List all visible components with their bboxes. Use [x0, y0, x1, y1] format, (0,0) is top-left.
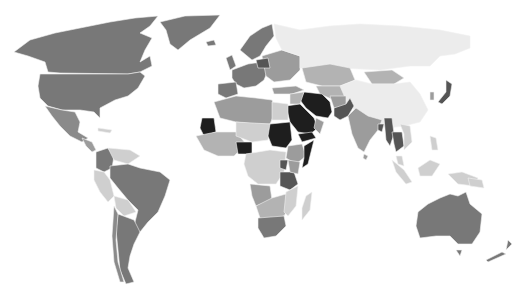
region-indonesia[interactable]	[392, 160, 478, 186]
region-sri-lanka[interactable]	[363, 154, 368, 160]
region-caribbean[interactable]	[98, 128, 112, 133]
region-kazakhstan[interactable]	[302, 64, 355, 86]
region-mexico[interactable]	[45, 106, 88, 142]
region-south-africa[interactable]	[258, 216, 286, 238]
region-kenya[interactable]	[288, 160, 300, 174]
region-new-zealand[interactable]	[486, 240, 512, 262]
region-oman[interactable]	[314, 118, 324, 134]
region-iceland[interactable]	[206, 40, 216, 46]
region-egypt[interactable]	[272, 102, 288, 120]
region-iberia[interactable]	[218, 82, 238, 98]
region-central-america[interactable]	[82, 138, 96, 152]
region-sudan[interactable]	[268, 122, 292, 148]
region-nigeria[interactable]	[236, 142, 252, 154]
region-mongolia[interactable]	[364, 70, 404, 84]
south-america	[94, 148, 170, 284]
region-somalia[interactable]	[302, 140, 314, 168]
region-russia[interactable]	[274, 24, 470, 70]
world-choropleth-map	[0, 0, 522, 289]
region-canada[interactable]	[14, 16, 158, 74]
region-australia[interactable]	[416, 192, 482, 244]
region-thailand[interactable]	[392, 132, 404, 152]
north-america	[14, 15, 220, 152]
region-uganda[interactable]	[280, 160, 288, 170]
region-poland[interactable]	[256, 58, 270, 68]
region-madagascar[interactable]	[302, 192, 312, 220]
region-papua[interactable]	[468, 178, 484, 188]
region-north-africa[interactable]	[214, 96, 276, 124]
region-philippines[interactable]	[430, 136, 438, 150]
region-uk[interactable]	[226, 55, 236, 70]
oceania	[416, 178, 512, 262]
region-korea[interactable]	[430, 92, 434, 100]
region-tasmania[interactable]	[456, 250, 462, 256]
region-mozambique[interactable]	[284, 186, 298, 216]
region-japan[interactable]	[438, 80, 452, 104]
region-bangladesh[interactable]	[378, 124, 384, 132]
